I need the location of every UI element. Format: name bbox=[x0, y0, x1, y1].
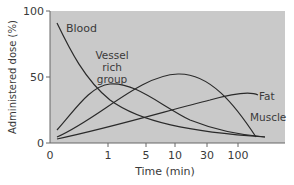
x-tick-label-0: 0 bbox=[47, 149, 54, 162]
x-axis-title: Time (min) bbox=[134, 165, 195, 178]
x-tick-label-30: 30 bbox=[200, 149, 214, 162]
x-tick-label-100: 100 bbox=[228, 149, 249, 162]
x-tick-label-10: 10 bbox=[168, 149, 182, 162]
label-vessel-2: rich bbox=[102, 61, 122, 73]
x-tick-label-1: 1 bbox=[105, 149, 112, 162]
y-tick-label-0: 0 bbox=[37, 137, 44, 150]
y-tick-label-100: 100 bbox=[23, 5, 44, 18]
label-vessel-1: Vessel bbox=[95, 49, 128, 61]
y-tick-label-50: 50 bbox=[30, 71, 44, 84]
label-fat: Fat bbox=[259, 90, 275, 102]
label-muscle: Muscle bbox=[250, 111, 286, 123]
y-axis-title: Administered dose (%) bbox=[7, 20, 18, 134]
label-vessel-3: group bbox=[97, 73, 128, 85]
dose-chart: 100 50 0 0 1 5 10 30 100 Time (min) Admi… bbox=[0, 0, 294, 185]
x-tick-label-5: 5 bbox=[143, 149, 150, 162]
label-blood: Blood bbox=[66, 22, 97, 35]
